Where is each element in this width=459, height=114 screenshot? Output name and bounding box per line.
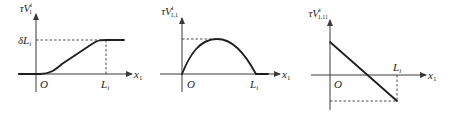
panel-2-curve	[182, 39, 268, 74]
panel-1-origin-label: O	[40, 78, 48, 90]
panel-1-x-tick-label: Li	[100, 78, 109, 92]
panel-1-y-tick-label: δLi	[18, 34, 31, 48]
panel-3-linear: τVi1,11 x1 O Li	[308, 7, 437, 110]
panel-3-y-label: τVi1,11	[308, 7, 328, 20]
panel-1-curve	[19, 40, 124, 74]
panel-2-x-label: x1	[281, 68, 291, 82]
panel-2-x-tick-label: Li	[249, 78, 258, 92]
panel-2-origin-label: O	[187, 78, 195, 90]
panel-1-y-label: τVi1	[20, 2, 33, 15]
panel-1-x-label: x1	[133, 68, 143, 82]
panel-1-sigmoid: τVi1 δLi x1 O Li	[18, 2, 143, 92]
panel-3-origin-label: O	[334, 78, 342, 90]
panel-3-x-label: x1	[427, 69, 437, 83]
panel-3-curve	[330, 42, 397, 101]
panel-3-x-tick-label: Li	[392, 61, 401, 75]
panel-2-arch: τVi1,1 x1 O Li	[160, 5, 291, 92]
figure-canvas: τVi1 δLi x1 O Li τVi1,1 x1 O Li	[0, 0, 459, 114]
panel-2-y-label: τVi1,1	[161, 5, 178, 18]
